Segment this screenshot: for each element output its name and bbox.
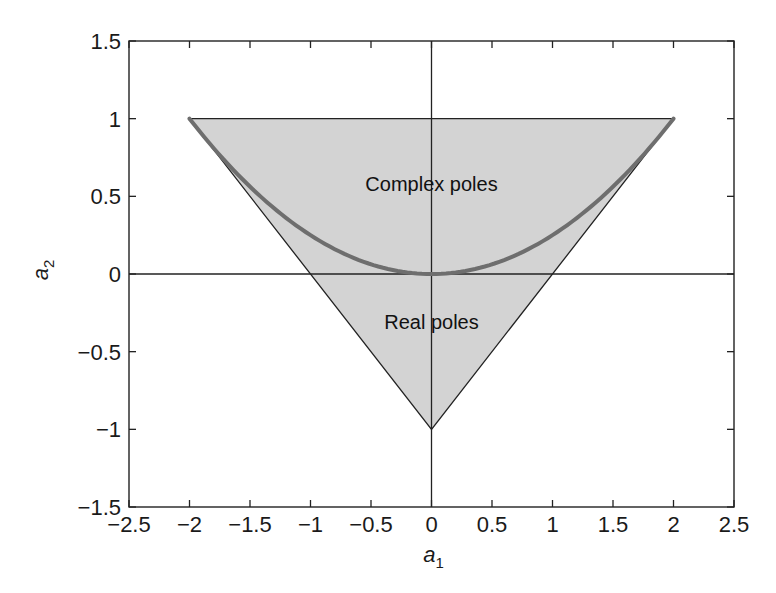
y-tick-label: 1 — [109, 107, 121, 132]
y-axis-label: a2 — [28, 260, 57, 281]
y-tick-label: 1.5 — [90, 29, 121, 54]
x-tick-label: 2.5 — [719, 512, 750, 537]
x-tick-label: −1.5 — [228, 512, 271, 537]
x-axis-label-main: a — [423, 542, 435, 567]
x-tick-label: −1 — [298, 512, 323, 537]
plot-area: −2.5−2−1.5−1−0.500.511.522.5 −1.5−1−0.50… — [28, 29, 749, 571]
real-poles-label: Real poles — [384, 311, 479, 333]
y-tick-label: −1 — [96, 417, 121, 442]
y-tick-label: −0.5 — [78, 340, 121, 365]
y-axis-label-sub: 2 — [40, 260, 57, 268]
x-tick-label: −0.5 — [349, 512, 392, 537]
stability-triangle-chart: −2.5−2−1.5−1−0.500.511.522.5 −1.5−1−0.50… — [0, 0, 776, 593]
x-axis-label-sub: 1 — [435, 554, 443, 571]
y-tick-label: −1.5 — [78, 495, 121, 520]
complex-poles-label: Complex poles — [365, 173, 497, 195]
y-axis-label-main: a — [28, 268, 53, 280]
x-tick-label: 0 — [425, 512, 437, 537]
x-axis-label: a1 — [423, 542, 444, 571]
x-tick-label: 0.5 — [477, 512, 508, 537]
y-tick-label: 0 — [109, 262, 121, 287]
y-tick-label: 0.5 — [90, 184, 121, 209]
x-tick-label: 2 — [667, 512, 679, 537]
x-tick-label: −2 — [177, 512, 202, 537]
x-tick-label: 1 — [546, 512, 558, 537]
x-tick-label: 1.5 — [598, 512, 629, 537]
